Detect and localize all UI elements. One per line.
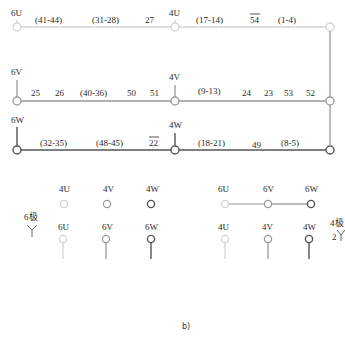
coil-group: 25 xyxy=(31,88,41,98)
terminal-4u-label: 4U xyxy=(169,8,181,18)
legend-label: 6V xyxy=(102,222,114,232)
wye-connection-icon xyxy=(27,225,37,237)
six-pole-label: 6极 xyxy=(24,211,38,222)
coil-group: (31-28) xyxy=(92,15,119,25)
row-v: 6V 4V 25 26 (40-36) 50 51 (9-13) 24 23 5… xyxy=(11,67,334,105)
legend-6-pole: 4U 4V 4W 6U 6V 6W 6极 xyxy=(24,184,160,259)
coil-group: 51 xyxy=(150,88,159,98)
terminal-6w-label: 6W xyxy=(11,115,25,125)
legend-label: 4U xyxy=(218,222,230,232)
wye-connection-icon xyxy=(337,230,345,241)
legend-label: 4V xyxy=(103,184,115,194)
terminal-6v-node xyxy=(13,97,21,105)
terminal-4v-node xyxy=(171,97,179,105)
coil-group: (9-13) xyxy=(198,86,221,96)
legend-label: 6W xyxy=(145,222,159,232)
legend-label: 4U xyxy=(59,184,71,194)
four-pole-label: 4极 xyxy=(330,217,344,228)
terminal-6v-label: 6V xyxy=(11,67,23,77)
coil-group: 26 xyxy=(55,88,65,98)
coil-group: (17-14) xyxy=(196,15,223,25)
coil-group: (8-5) xyxy=(281,138,299,148)
coil-group: 50 xyxy=(127,88,137,98)
row-w: 6W 4W (32-35) (48-45) 22 (18-21) 49 (8-5… xyxy=(11,115,334,154)
coil-group: 27 xyxy=(145,15,155,25)
legend-4-pole: 6U 6V 6W 4U 4V 4W 4极 2 xyxy=(218,184,345,259)
coil-group: 23 xyxy=(264,88,274,98)
coil-group: (41-44) xyxy=(35,15,62,25)
terminal-4w-node xyxy=(171,146,179,154)
legend-label: 4W xyxy=(146,184,160,194)
coil-group: (48-45) xyxy=(96,138,123,148)
coil-group: 52 xyxy=(306,88,315,98)
legend-label: 4V xyxy=(262,222,274,232)
coil-group: (32-35) xyxy=(40,138,67,148)
coil-group: (18-21) xyxy=(198,138,225,148)
legend-label: 6U xyxy=(58,222,70,232)
coil-group: 53 xyxy=(284,88,294,98)
end-u-node xyxy=(326,23,334,31)
terminal-4w-label: 4W xyxy=(169,120,183,130)
double-wye-prefix: 2 xyxy=(332,232,337,242)
winding-connection-diagram: 6U 4U (41-44) (31-28) 27 (17-14) 54 (1-4… xyxy=(0,0,345,339)
coil-group: 24 xyxy=(242,88,252,98)
coil-group: (1-4) xyxy=(278,15,296,25)
terminal-4v-label: 4V xyxy=(169,72,181,82)
coil-group: (40-36) xyxy=(80,88,107,98)
legend-label: 4W xyxy=(303,222,317,232)
terminal-4u-node xyxy=(171,23,179,31)
end-w-node xyxy=(326,146,334,154)
legend-label: 6W xyxy=(305,184,319,194)
terminal-6u-node xyxy=(13,23,21,31)
coil-group: 49 xyxy=(252,140,262,150)
coil-group-overlined: 54 xyxy=(250,15,260,25)
row-u: 6U 4U (41-44) (31-28) 27 (17-14) 54 (1-4… xyxy=(11,8,334,31)
coil-group-overlined: 22 xyxy=(149,138,158,148)
legend-label: 6V xyxy=(263,184,275,194)
end-v-node xyxy=(326,97,334,105)
figure-caption: b) xyxy=(182,322,190,331)
terminal-6w-node xyxy=(13,146,21,154)
legend-label: 6U xyxy=(218,184,230,194)
terminal-6u-label: 6U xyxy=(11,8,23,18)
